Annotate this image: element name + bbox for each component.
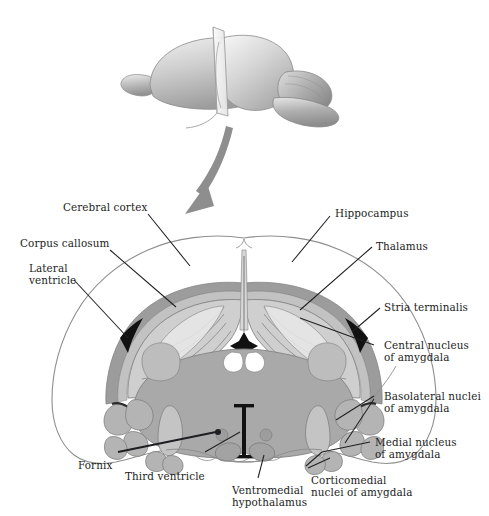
label-ventromedial-hypothalamus: Ventromedial hypothalamus	[232, 484, 307, 509]
label-thalamus: Thalamus	[376, 240, 428, 252]
label-third-ventricle: Third ventricle	[125, 470, 205, 482]
label-lateral-ventricle: Lateral ventricle	[29, 262, 76, 287]
label-stria-terminalis: Stria terminalis	[384, 301, 468, 313]
thalamus-shoulder-right	[308, 343, 346, 381]
section-plane-stem	[186, 113, 217, 128]
label-basolateral-nuclei: Basolateral nuclei of amygdala	[384, 390, 481, 415]
label-fornix: Fornix	[78, 459, 112, 471]
label-corticomedial-nuclei: Corticomedial nuclei of amygdala	[311, 474, 412, 499]
label-hippocampus: Hippocampus	[335, 207, 409, 219]
fornix-right	[260, 429, 272, 441]
section-direction-arrow	[185, 126, 233, 214]
label-cerebral-cortex: Cerebral cortex	[63, 201, 147, 213]
label-medial-nucleus: Medial nucleus of amygdala	[375, 436, 457, 461]
inset-3d-brain	[121, 27, 339, 128]
thalamus-shoulder-left	[142, 343, 180, 381]
amygdala-complex-right	[305, 400, 384, 475]
amygdala-complex-left	[104, 400, 183, 475]
label-central-nucleus: Central nucleus of amygdala	[384, 339, 469, 364]
label-corpus-callosum: Corpus callosum	[20, 237, 109, 249]
